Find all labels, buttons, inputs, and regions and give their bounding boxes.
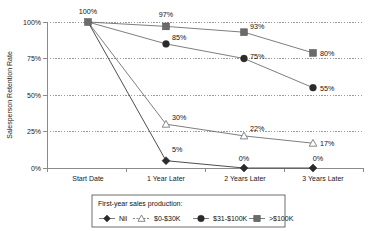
y-axis-title: Salesperson Retention Rate xyxy=(6,51,14,139)
legend-title: First-year sales production: xyxy=(98,200,182,208)
filled-square-icon xyxy=(254,215,260,221)
markers-0-30k xyxy=(162,120,317,146)
x-tick-1-year: 1 Year Later xyxy=(147,175,185,182)
y-tick-75: 75% xyxy=(27,55,41,62)
y-tick-0: 0% xyxy=(31,165,41,172)
retention-line-chart: 100% 75% 50% 25% 0% Salesperson Retentio… xyxy=(0,0,373,231)
series-line-nil xyxy=(88,22,313,168)
label-31-100k-3years: 55% xyxy=(320,84,335,93)
label-0-30k-3years: 17% xyxy=(320,139,335,148)
label-over100k-2years: 93% xyxy=(250,22,265,31)
label-31-100k-1year: 85% xyxy=(172,33,187,42)
filled-circle-icon xyxy=(198,215,205,222)
axis-lines xyxy=(43,22,363,172)
gridlines xyxy=(47,22,363,132)
label-over100k-3years: 80% xyxy=(320,49,335,58)
legend-label-0-30k: $0-$30K xyxy=(154,215,181,222)
legend-label-over-100k: >$100K xyxy=(269,215,294,222)
label-31-100k-2years: 75% xyxy=(250,52,265,61)
legend-label-nil: Nil xyxy=(119,215,128,222)
label-start-100: 100% xyxy=(79,7,98,16)
markers-31-100k xyxy=(163,41,317,92)
y-tick-50: 50% xyxy=(27,92,41,99)
legend: First-year sales production: Nil $0-$30K… xyxy=(92,195,294,227)
x-axis-tick-labels: Start Date 1 Year Later 2 Years Later 3 … xyxy=(72,175,344,182)
x-tick-2-years: 2 Years Later xyxy=(224,175,266,182)
x-tick-start-date: Start Date xyxy=(72,175,104,182)
y-tick-100: 100% xyxy=(23,19,41,26)
x-tick-3-years: 3 Years Later xyxy=(302,175,344,182)
label-nil-2years: 0% xyxy=(239,154,250,163)
legend-label-31-100k: $31-$100K xyxy=(213,215,248,222)
legend-item-over-100k[interactable]: >$100K xyxy=(249,215,294,222)
y-tick-25: 25% xyxy=(27,128,41,135)
label-nil-3years: 0% xyxy=(313,154,324,163)
legend-item-31-100k[interactable]: $31-$100K xyxy=(193,215,248,222)
series-line-31-100k xyxy=(88,22,313,88)
y-axis-tick-labels: 100% 75% 50% 25% 0% xyxy=(23,19,41,172)
label-nil-1year: 5% xyxy=(172,145,183,154)
series-line-over-100k xyxy=(88,22,313,53)
label-over100k-1year: 97% xyxy=(159,10,174,19)
label-0-30k-2years: 22% xyxy=(250,124,265,133)
label-0-30k-1year: 30% xyxy=(172,113,187,122)
